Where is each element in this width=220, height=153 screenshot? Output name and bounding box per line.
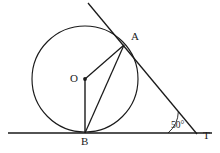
geometry-canvas xyxy=(0,0,220,153)
label-point-a: A xyxy=(131,31,139,42)
label-angle-50: 50° xyxy=(171,121,184,131)
radius-oa-segment xyxy=(85,45,124,79)
label-point-b: B xyxy=(81,136,88,147)
tangent-line-segment xyxy=(88,3,197,134)
center-point-dot xyxy=(83,77,87,81)
label-center-o: O xyxy=(70,73,78,84)
label-point-t: T xyxy=(203,130,210,141)
geometry-figure: O A B T 50° xyxy=(0,0,220,153)
